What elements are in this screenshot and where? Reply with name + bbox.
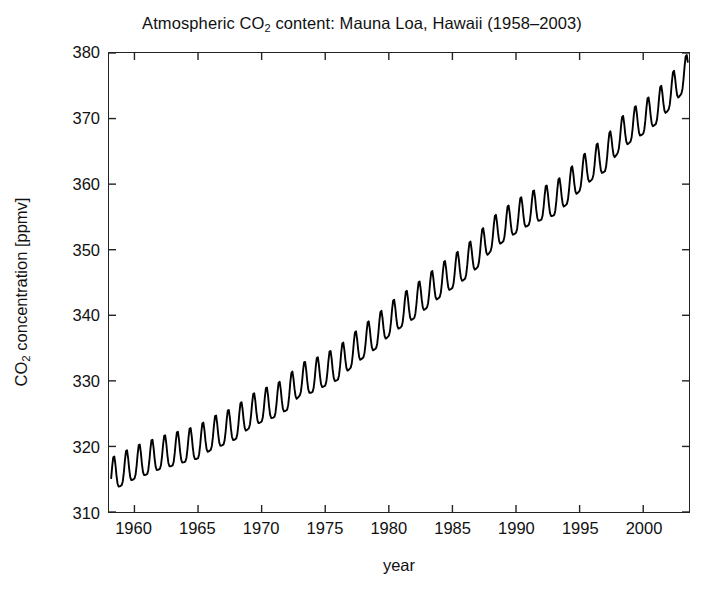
- y-axis-label-post: concentration [ppmv]: [12, 198, 30, 356]
- y-tick-label: 320: [44, 438, 100, 457]
- y-tick-label: 340: [44, 306, 100, 325]
- y-axis-label-pre: CO: [12, 362, 30, 387]
- co2-series-line: [111, 55, 688, 487]
- y-tick-label: 360: [44, 174, 100, 193]
- x-tick-label: 1965: [162, 519, 232, 538]
- y-axis-label-subscript: 2: [20, 355, 32, 361]
- x-tick-label: 1995: [545, 519, 615, 538]
- y-tick-label: 380: [44, 43, 100, 62]
- x-tick-label: 1980: [354, 519, 424, 538]
- plot-area: [108, 52, 690, 513]
- data-plot: [109, 53, 689, 512]
- y-axis-label: CO2 concentration [ppmv]: [12, 102, 32, 482]
- y-tick-label: 330: [44, 372, 100, 391]
- x-tick-label: 1985: [418, 519, 488, 538]
- x-tick-label: 2000: [609, 519, 679, 538]
- x-tick-label: 1975: [290, 519, 360, 538]
- y-tick-label: 350: [44, 240, 100, 259]
- y-tick-label: 370: [44, 108, 100, 127]
- chart-title-pre: Atmospheric CO: [142, 14, 264, 32]
- x-tick-label: 1970: [226, 519, 296, 538]
- chart-title-post: content: Mauna Loa, Hawaii (1958–2003): [271, 14, 582, 32]
- chart-title: Atmospheric CO2 content: Mauna Loa, Hawa…: [0, 14, 724, 34]
- chart-figure: Atmospheric CO2 content: Mauna Loa, Hawa…: [0, 0, 724, 603]
- x-axis-label: year: [108, 556, 690, 575]
- x-tick-label: 1990: [481, 519, 551, 538]
- x-tick-label: 1960: [99, 519, 169, 538]
- y-tick-label: 310: [44, 504, 100, 523]
- axis-tick-marks: [109, 53, 689, 512]
